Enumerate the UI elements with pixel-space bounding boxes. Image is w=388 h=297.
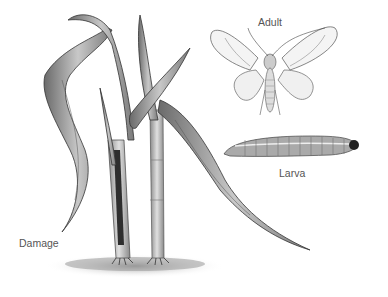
adult-moth-icon <box>211 27 338 115</box>
pest-illustration: Adult Larva Damage <box>0 0 388 297</box>
adult-label: Adult <box>258 16 282 28</box>
leaves-icon <box>44 15 310 250</box>
larva-label: Larva <box>279 167 305 179</box>
larva-icon <box>224 136 359 156</box>
soil-icon <box>45 254 225 278</box>
damage-label: Damage <box>19 237 59 249</box>
illustration-drawing <box>0 0 388 297</box>
healthy-stem-icon <box>147 110 169 265</box>
